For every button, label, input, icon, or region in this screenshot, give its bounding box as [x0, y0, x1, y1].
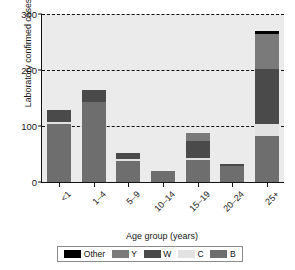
bar-2024 — [220, 14, 244, 182]
x-tick-mark — [267, 182, 268, 187]
legend-swatch-Other — [64, 250, 81, 258]
legend-swatch-B — [210, 250, 227, 258]
chart-legend: OtherYWCB — [57, 246, 243, 262]
x-tick-mark — [59, 182, 60, 187]
x-tick-mark — [163, 182, 164, 187]
bar-segment-W — [186, 141, 210, 158]
bar-segment-B — [47, 124, 71, 182]
plot-inner — [42, 14, 284, 182]
bar-segment-W — [255, 69, 279, 123]
x-tick-label: 20–24 — [221, 189, 246, 214]
x-axis-title: Age group (years) — [41, 231, 283, 241]
bar-segment-C — [47, 122, 71, 124]
legend-item-Other: Other — [64, 250, 105, 259]
bar-segment-C — [255, 124, 279, 136]
bar-1 — [47, 14, 71, 182]
legend-label: B — [230, 250, 236, 259]
bar-segment-C — [186, 158, 210, 160]
bar-segment-Y — [255, 34, 279, 69]
legend-label: C — [198, 250, 204, 259]
bar-segment-W — [116, 153, 140, 159]
legend-swatch-Y — [112, 250, 129, 258]
legend-item-C: C — [178, 250, 204, 259]
x-tick-mark — [232, 182, 233, 187]
x-tick-label: 15–19 — [187, 189, 212, 214]
legend-swatch-C — [178, 250, 195, 258]
x-tick-mark — [128, 182, 129, 187]
bar-segment-B — [186, 160, 210, 182]
bar-segment-B — [220, 166, 244, 182]
bar-segment-B — [116, 161, 140, 182]
plot-area: 0100200300<11–45–910–1415–1920–2425+ — [41, 14, 284, 183]
bar-segment-Other — [255, 31, 279, 34]
bar-segment-B — [151, 171, 175, 182]
bar-segment-W — [82, 90, 106, 102]
legend-item-Y: Y — [112, 250, 137, 259]
y-tick-mark — [38, 70, 42, 71]
x-tick-label: 10–14 — [152, 189, 177, 214]
bar-segment-W — [47, 110, 71, 122]
bar-14 — [82, 14, 106, 182]
bar-1519 — [186, 14, 210, 182]
x-tick-label: 25+ — [263, 189, 281, 207]
y-tick-mark — [38, 14, 42, 15]
bar-segment-B — [255, 136, 279, 182]
bar-segment-W — [220, 164, 244, 166]
bar-59 — [116, 14, 140, 182]
legend-label: Other — [84, 250, 105, 259]
x-tick-mark — [198, 182, 199, 187]
bar-segment-C — [116, 159, 140, 161]
x-tick-label: <1 — [59, 189, 73, 203]
legend-item-W: W — [144, 250, 172, 259]
legend-swatch-W — [144, 250, 161, 258]
bar-1014 — [151, 14, 175, 182]
chart-figure: Laboratory confirmed cases 0100200300<11… — [0, 0, 295, 270]
bar-segment-Y — [186, 133, 210, 141]
y-tick-mark — [38, 126, 42, 127]
legend-label: Y — [131, 250, 137, 259]
legend-item-B: B — [210, 250, 235, 259]
x-tick-label: 5–9 — [125, 189, 143, 207]
legend-label: W — [163, 250, 171, 259]
bar-25+ — [255, 14, 279, 182]
bar-segment-B — [82, 102, 106, 182]
x-tick-label: 1–4 — [90, 189, 108, 207]
y-tick-mark — [38, 182, 42, 183]
x-tick-mark — [94, 182, 95, 187]
